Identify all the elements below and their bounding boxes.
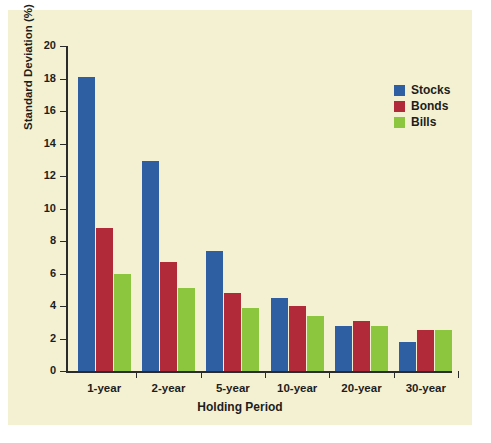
x-tick-label-20-year: 20-year	[329, 382, 393, 394]
y-tick-label: 14	[44, 137, 56, 149]
x-tick-label-30-year: 30-year	[394, 382, 458, 394]
bar-stocks-10-year	[271, 298, 288, 371]
x-tick	[201, 371, 202, 378]
legend-swatch-stocks-icon	[394, 85, 405, 96]
y-tick: 12	[60, 176, 66, 177]
legend-item-bonds[interactable]: Bonds	[394, 98, 450, 114]
y-tick-label: 18	[44, 72, 56, 84]
bar-bonds-10-year	[289, 306, 306, 371]
bar-bills-30-year	[435, 330, 452, 371]
y-tick-label: 4	[50, 299, 56, 311]
y-axis-title: Standard Deviation (%)	[22, 4, 34, 130]
x-tick	[458, 371, 459, 378]
y-tick: 10	[60, 209, 66, 210]
bar-stocks-1-year	[78, 77, 95, 371]
bar-bills-10-year	[307, 316, 324, 371]
x-tick-label-5-year: 5-year	[201, 382, 265, 394]
y-tick-label: 10	[44, 202, 56, 214]
x-tick	[265, 371, 266, 378]
bar-stocks-5-year	[206, 251, 223, 371]
chart-figure: Standard Deviation (%) 02468101214161820…	[8, 10, 472, 425]
bar-bonds-5-year	[224, 293, 241, 371]
bar-bonds-30-year	[417, 330, 434, 371]
legend-label: Stocks	[411, 83, 450, 97]
bar-bills-2-year	[178, 288, 195, 371]
chart-legend: StocksBondsBills	[394, 82, 450, 130]
x-tick-label-10-year: 10-year	[265, 382, 329, 394]
bar-bonds-1-year	[96, 228, 113, 371]
x-axis-title: Holding Period	[8, 400, 472, 414]
legend-swatch-bonds-icon	[394, 101, 405, 112]
y-tick-label: 16	[44, 104, 56, 116]
bar-bills-20-year	[371, 326, 388, 372]
bar-bonds-20-year	[353, 321, 370, 371]
y-axis-line	[66, 46, 68, 371]
y-tick: 14	[60, 144, 66, 145]
y-tick: 6	[60, 274, 66, 275]
y-tick: 16	[60, 111, 66, 112]
legend-label: Bonds	[411, 99, 448, 113]
bar-stocks-20-year	[335, 326, 352, 372]
y-tick-label: 2	[50, 332, 56, 344]
y-tick: 4	[60, 306, 66, 307]
x-tick	[136, 371, 137, 378]
legend-item-stocks[interactable]: Stocks	[394, 82, 450, 98]
bar-stocks-30-year	[399, 342, 416, 371]
y-tick-label: 12	[44, 169, 56, 181]
y-tick: 2	[60, 339, 66, 340]
legend-label: Bills	[411, 115, 436, 129]
y-tick: 0	[60, 371, 66, 372]
y-tick: 18	[60, 79, 66, 80]
y-tick: 8	[60, 241, 66, 242]
bar-stocks-2-year	[142, 161, 159, 371]
bar-bonds-2-year	[160, 262, 177, 371]
y-tick-label: 8	[50, 234, 56, 246]
y-tick-label: 20	[44, 39, 56, 51]
y-tick-label: 6	[50, 267, 56, 279]
x-tick	[329, 371, 330, 378]
bar-bills-1-year	[114, 274, 131, 372]
bar-bills-5-year	[242, 308, 259, 371]
legend-swatch-bills-icon	[394, 117, 405, 128]
y-tick: 20	[60, 46, 66, 47]
x-tick-label-2-year: 2-year	[136, 382, 200, 394]
legend-item-bills[interactable]: Bills	[394, 114, 450, 130]
y-tick-label: 0	[50, 364, 56, 376]
x-tick	[394, 371, 395, 378]
x-tick-label-1-year: 1-year	[72, 382, 136, 394]
